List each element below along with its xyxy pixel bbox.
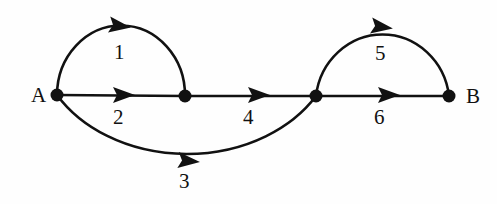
graph-diagram: A B 1 2 3 4 5 6 <box>0 0 497 204</box>
edge-path-3[interactable] <box>57 95 316 154</box>
node-label-b: B <box>466 86 480 107</box>
edge-label-5: 5 <box>375 43 386 64</box>
vertex-dot-n3[interactable] <box>310 90 323 103</box>
graph-canvas <box>0 0 497 204</box>
edge-label-4: 4 <box>243 107 254 128</box>
edge-label-1: 1 <box>114 42 125 63</box>
vertex-dot-A[interactable] <box>51 89 64 102</box>
node-label-a: A <box>31 85 46 106</box>
edge-label-6: 6 <box>374 107 385 128</box>
vertex-dot-n2[interactable] <box>179 90 192 103</box>
vertex-dot-B[interactable] <box>443 90 456 103</box>
edge-label-2: 2 <box>113 107 124 128</box>
edge-label-3: 3 <box>179 171 190 192</box>
